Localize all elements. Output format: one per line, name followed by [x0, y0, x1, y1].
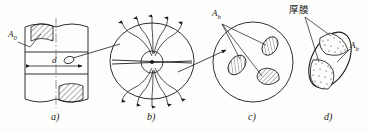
- panel-a-specimen: [18, 18, 120, 108]
- panel-caption-c: c): [248, 112, 256, 122]
- panel-d-area-label: Ab: [350, 41, 359, 52]
- panel-caption-d: d): [324, 112, 332, 122]
- panel-c-inclusions: [213, 22, 293, 102]
- panel-b-stress-field: [110, 16, 226, 107]
- panel-c-area-label: Ab: [212, 9, 221, 20]
- figure-container: A0 d Ab 厚膜 Ab a) b) c) d): [0, 0, 370, 131]
- panel-caption-a: a): [51, 112, 59, 122]
- panel-d-coated-particle: [300, 17, 360, 95]
- panel-a-diameter-label: d: [52, 56, 57, 65]
- panel-caption-b: b): [147, 112, 155, 122]
- panel-a-area-label: A0: [8, 30, 17, 41]
- panel-d-thick-film-label: 厚膜: [289, 5, 309, 15]
